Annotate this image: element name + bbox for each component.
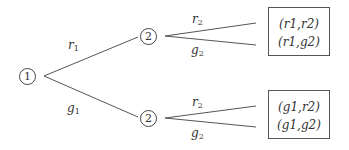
branch-label-upper-r2: r2 — [192, 13, 203, 29]
branch-label-r1: r1 — [68, 39, 79, 55]
outcome-g1-r2: (g1,r2) — [269, 100, 329, 114]
stage2-node-upper: 2 — [140, 28, 157, 45]
branch-label-lower-r2: r2 — [192, 96, 203, 112]
outcome-box-r1: (r1,r2) (r1,g2) — [268, 7, 330, 56]
outcome-g1-g2: (g1,g2) — [269, 118, 329, 132]
outcome-box-g1: (g1,r2) (g1,g2) — [268, 90, 330, 139]
branch-label-lower-g2: g2 — [191, 127, 204, 143]
branch-label-g1: g1 — [67, 102, 80, 118]
edge-root-upper — [44, 37, 138, 76]
edge-upper-g2 — [165, 36, 256, 45]
root-node: 1 — [19, 68, 36, 85]
branch-label-upper-g2: g2 — [191, 44, 204, 60]
outcome-r1-r2: (r1,r2) — [269, 17, 329, 31]
edge-lower-r2 — [165, 106, 256, 118]
edge-root-lower — [44, 76, 138, 117]
edge-lower-g2 — [165, 118, 256, 127]
outcome-r1-g2: (r1,g2) — [269, 35, 329, 49]
edge-upper-r2 — [165, 23, 256, 36]
stage2-node-lower: 2 — [140, 110, 157, 127]
